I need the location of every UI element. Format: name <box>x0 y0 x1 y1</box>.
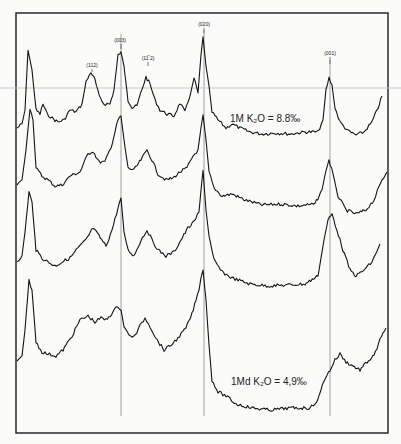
peak-label-112: (112) <box>86 62 98 68</box>
peak-label-020: (020) <box>198 21 210 27</box>
diffraction-trace-2 <box>17 109 387 213</box>
figure-frame <box>16 13 388 433</box>
diffraction-trace-3 <box>17 170 380 287</box>
peak-label-001: (001) <box>324 50 336 56</box>
annotation-1md: 1Md K₂O = 4,9‰ <box>231 376 307 387</box>
annotation-1m: 1M K₂O = 8.8‰ <box>230 113 300 124</box>
peak-label-11b2: (11̅ 2) <box>142 55 155 61</box>
peak-label-003: (003) <box>114 37 126 43</box>
diffraction-traces <box>17 37 387 411</box>
xrd-figure: (112) (003) (11̅ 2) (020) (001) 1M K₂O =… <box>0 0 401 444</box>
diffraction-trace-4 <box>17 270 386 411</box>
